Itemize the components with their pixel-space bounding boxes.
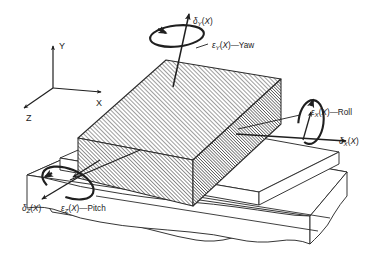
guideway-error-motions-diagram: Y X Z δY(X) εY(X)—Yaw εX(X)—Roll δX(X) δ… bbox=[0, 0, 374, 268]
label-epsilon-z-pitch: εZ(X)—Pitch bbox=[61, 204, 106, 214]
figure-root: Y X Z δY(X) εY(X)—Yaw εX(X)—Roll δX(X) δ… bbox=[0, 0, 374, 268]
label-delta-z: δZ(X) bbox=[22, 204, 42, 214]
axis-label-y: Y bbox=[59, 41, 65, 51]
label-delta-x: δX(X) bbox=[339, 137, 359, 147]
axis-label-z: Z bbox=[26, 113, 32, 123]
axis-label-x: X bbox=[96, 98, 102, 108]
label-delta-y: δY(X) bbox=[193, 17, 213, 27]
